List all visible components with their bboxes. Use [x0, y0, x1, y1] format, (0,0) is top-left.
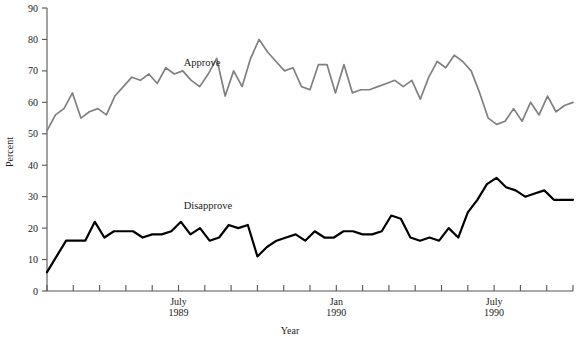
x-tick-label: 1990	[326, 307, 346, 318]
y-tick-label: 20	[28, 223, 38, 234]
y-tick-label: 0	[33, 286, 38, 297]
line-chart: 0102030405060708090 July1989Jan1990July1…	[0, 0, 579, 341]
y-tick-label: 30	[28, 191, 38, 202]
x-tick-label: July	[486, 296, 503, 307]
y-tick-label: 90	[28, 3, 38, 14]
y-tick-label: 40	[28, 160, 38, 171]
y-tick-label: 60	[28, 97, 38, 108]
x-axis-title: Year	[281, 325, 300, 336]
x-tick-label: 1989	[169, 307, 189, 318]
x-tick-label: 1990	[484, 307, 504, 318]
series-line-approve	[47, 39, 573, 130]
y-tick-label: 80	[28, 34, 38, 45]
x-axis: July1989Jan1990July1990	[47, 285, 573, 318]
x-tick-label: Jan	[330, 296, 343, 307]
x-tick-label: July	[170, 296, 187, 307]
y-tick-label: 70	[28, 65, 38, 76]
chart-container: 0102030405060708090 July1989Jan1990July1…	[0, 0, 579, 341]
y-axis-title: Percent	[4, 137, 15, 167]
series-line-disapprove	[47, 178, 573, 272]
y-tick-label: 50	[28, 128, 38, 139]
series-lines	[47, 39, 573, 272]
series-annotation-disapprove: Disapprove	[184, 200, 233, 211]
y-tick-label: 10	[28, 254, 38, 265]
series-annotation-approve: Approve	[184, 57, 221, 68]
y-axis: 0102030405060708090	[28, 3, 47, 297]
